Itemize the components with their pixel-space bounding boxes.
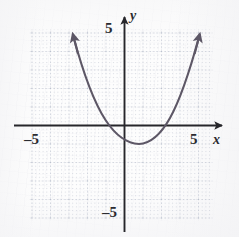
coordinate-plane-svg	[0, 0, 239, 237]
y-axis-tick-label-positive-5: 5	[105, 21, 113, 36]
graph-figure: –5 5 5 –5 x y	[0, 0, 239, 237]
x-axis-name-label: x	[213, 133, 220, 147]
y-axis-name-label: y	[130, 9, 136, 23]
y-axis-tick-label-negative-5: –5	[102, 205, 117, 220]
x-axis-tick-label-positive-5: 5	[190, 132, 198, 147]
x-axis-tick-label-negative-5: –5	[24, 132, 39, 147]
